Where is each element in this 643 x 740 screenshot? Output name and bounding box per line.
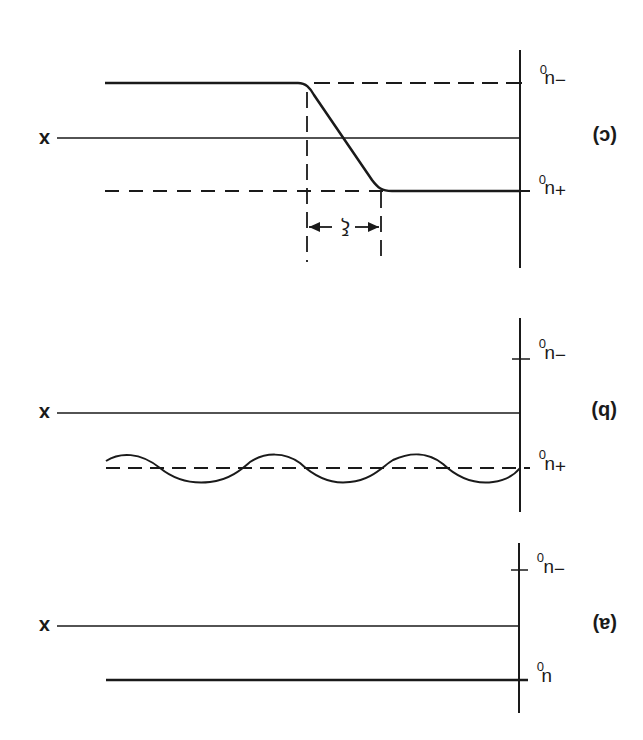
panel-c-width-label: ξ: [341, 217, 350, 239]
panel-c-profile-curve: [105, 83, 520, 191]
panel-b-panel-label: (b): [591, 401, 617, 423]
panel-c-upper-level-sub: 0: [540, 62, 547, 77]
panel-a-upper-level-label: −u: [543, 559, 565, 580]
panel-b-upper-level-sub: 0: [539, 336, 546, 351]
panel-c-x-axis-label: x: [39, 129, 50, 151]
panel-c: [57, 50, 530, 268]
panel-b-upper-level-label: −u: [544, 345, 566, 366]
panel-b: [57, 318, 530, 512]
panel-a-x-axis-label: x: [39, 616, 50, 638]
arrowhead-left-icon: [309, 222, 320, 232]
panel-c-panel-label: (c): [593, 126, 617, 148]
panel-a-lower-level-sub: 0: [537, 659, 544, 674]
panel-b-lower-level-sub: 0: [539, 447, 546, 462]
panel-c-lower-level-sub: 0: [539, 172, 546, 187]
panel-c-lower-level-label: +u: [544, 180, 566, 201]
panel-a-panel-label: (a): [593, 614, 617, 636]
arrowhead-right-icon: [368, 222, 379, 232]
panel-b-x-axis-label: x: [39, 403, 50, 425]
figure-canvas: x −u 0 +u 0 (c) ξ x −u 0 +u 0 (b) x −u 0…: [0, 0, 643, 740]
panel-a-upper-level-sub: 0: [537, 550, 544, 565]
panel-a: [57, 543, 528, 713]
panel-b-lower-level-label: +u: [544, 456, 566, 477]
